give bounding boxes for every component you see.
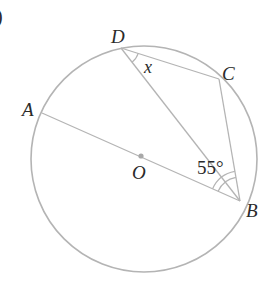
center-point-O (138, 153, 143, 158)
label-O: O (132, 163, 146, 182)
label-C: C (222, 64, 235, 83)
label-B: B (246, 201, 258, 220)
angle-label-x: x (144, 58, 152, 76)
label-A: A (22, 100, 34, 119)
angle-arc-x (132, 53, 138, 62)
circle-diagram (0, 0, 270, 297)
label-D: D (111, 27, 125, 46)
segment-CB (219, 79, 240, 201)
angle-label-55: 55° (197, 158, 224, 177)
